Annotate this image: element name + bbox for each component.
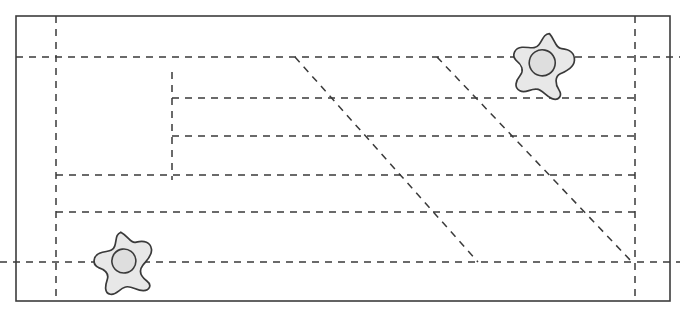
amoeba-top-right (506, 27, 578, 101)
dashed-diagonal-d1 (295, 57, 478, 262)
diagram-canvas (0, 0, 680, 318)
figure-svg (0, 0, 680, 318)
